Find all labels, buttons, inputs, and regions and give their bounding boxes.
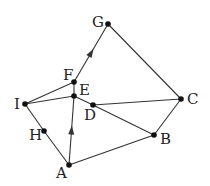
node-label-B: B	[160, 130, 171, 148]
graph-diagram: GCBDEFIHA	[0, 0, 210, 186]
node-C	[178, 96, 184, 102]
node-E	[71, 93, 77, 99]
arrowhead-icon	[86, 47, 96, 58]
labels-layer: GCBDEFIHA	[14, 13, 198, 182]
edges-layer	[25, 24, 181, 165]
edge-G-C	[108, 24, 181, 99]
node-label-E: E	[79, 81, 90, 99]
node-label-C: C	[187, 90, 198, 108]
node-label-H: H	[29, 126, 42, 144]
node-label-A: A	[55, 164, 67, 182]
edge-A-B	[69, 135, 154, 165]
node-A	[66, 162, 72, 168]
node-label-I: I	[14, 95, 20, 113]
edge-H-A	[44, 131, 69, 165]
node-label-D: D	[84, 106, 96, 124]
edge-D-B	[93, 105, 154, 135]
node-label-G: G	[92, 13, 104, 31]
node-I	[22, 101, 28, 107]
edge-I-E	[25, 96, 74, 104]
node-B	[151, 132, 157, 138]
node-label-F: F	[63, 66, 73, 84]
edge-I-F	[25, 82, 74, 104]
arrowhead-icon	[68, 125, 75, 134]
edge-D-C	[93, 99, 181, 105]
node-G	[105, 21, 111, 27]
